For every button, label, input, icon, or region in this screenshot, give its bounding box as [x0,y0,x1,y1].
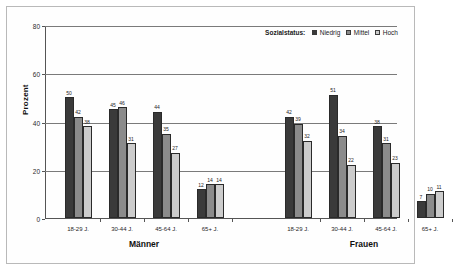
bar-value-label: 14 [207,178,213,183]
bar-group: 454631 [105,25,139,218]
bar-value-label: 14 [216,178,222,183]
bar-slot: 42 [74,25,83,218]
bar-slot: 39 [294,25,303,218]
x-axis-category-label: 65+ J. [202,226,219,232]
bar-slot: 50 [65,25,74,218]
bar-value-label: 22 [348,158,354,163]
bar[interactable] [171,153,180,218]
bar-value-label: 42 [286,110,292,115]
x-axis-category-label: 65+ J. [422,226,439,232]
bar-slot: 23 [391,25,400,218]
x-tick-mark [100,219,101,222]
bar[interactable] [83,126,92,218]
x-tick-mark [364,219,365,222]
bar-slot: 45 [109,25,118,218]
bar-slot: 51 [329,25,338,218]
bar-slot: 14 [206,25,215,218]
bar[interactable] [303,141,312,218]
bar[interactable] [215,184,224,218]
x-axis-category-label: 45-64 J. [155,226,177,232]
bar[interactable] [382,143,391,218]
bar[interactable] [373,126,382,218]
x-axis-category-label: 45-64 J. [375,226,397,232]
x-tick-mark [188,219,189,222]
bar-value-label: 51 [330,88,336,93]
bar-slot: 35 [162,25,171,218]
bar[interactable] [435,191,444,218]
x-axis-category-label: 18-29 J. [67,226,89,232]
bar-value-label: 32 [304,134,310,139]
bar-slot: 32 [303,25,312,218]
x-axis-category-label: 30-44 J. [331,226,353,232]
x-tick-mark [232,219,233,222]
bar-slot: 38 [373,25,382,218]
bar[interactable] [391,163,400,218]
bar[interactable] [65,97,74,218]
bar-group: 121414 [193,25,227,218]
y-tick-mark [42,171,45,172]
bar-value-label: 23 [392,156,398,161]
plot-area: 80604020050423818-29 J.45463130-44 J.443… [45,26,397,219]
bar[interactable] [285,117,294,218]
bar-value-label: 11 [436,185,441,190]
bar-group: 513422 [325,25,359,218]
bar-value-label: 39 [295,117,301,122]
y-tick-label: 0 [36,216,40,223]
bar-slot: 31 [127,25,136,218]
y-tick-mark [42,74,45,75]
bar-group: 71011 [413,25,447,218]
bar[interactable] [338,136,347,218]
y-tick-mark [42,26,45,27]
bar[interactable] [329,95,338,218]
bar[interactable] [162,134,171,218]
bar-slot: 27 [171,25,180,218]
bar[interactable] [426,194,435,218]
bar-value-label: 35 [163,127,169,132]
bar[interactable] [74,117,83,218]
bar-slot: 7 [417,25,426,218]
x-tick-mark [144,219,145,222]
bar-value-label: 46 [119,101,125,106]
chart-frame: Prozent Sozialstatus: NiedrigMittelHoch … [6,6,415,264]
bar-slot: 11 [435,25,444,218]
panel-label-frauen: Frauen [350,239,378,249]
bar-value-label: 45 [110,103,116,108]
x-tick-mark [408,219,409,222]
bar-slot: 10 [426,25,435,218]
bar-slot: 38 [83,25,92,218]
bar-slot: 44 [153,25,162,218]
y-axis-title: Prozent [21,84,30,115]
bar-slot: 31 [382,25,391,218]
bar-value-label: 27 [172,146,178,151]
bar[interactable] [347,165,356,218]
bar-slot: 34 [338,25,347,218]
bar[interactable] [417,201,426,218]
bar-value-label: 38 [374,120,380,125]
bar-slot: 46 [118,25,127,218]
bar-value-label: 10 [427,187,433,192]
bar[interactable] [127,143,136,218]
bar-slot: 14 [215,25,224,218]
bar-value-label: 34 [339,129,345,134]
bar[interactable] [118,107,127,218]
bar-value-label: 44 [154,105,160,110]
bar-value-label: 42 [75,110,81,115]
bar-value-label: 12 [198,183,204,188]
bar[interactable] [109,109,118,218]
bar-value-label: 7 [420,195,423,200]
y-tick-label: 80 [33,23,40,30]
bar[interactable] [153,112,162,218]
y-tick-label: 60 [33,71,40,78]
bar-slot: 12 [197,25,206,218]
bar[interactable] [197,189,206,218]
x-axis-category-label: 18-29 J. [287,226,309,232]
y-tick-label: 40 [33,119,40,126]
bar[interactable] [206,184,215,218]
bar-value-label: 38 [84,120,90,125]
y-tick-mark [42,219,45,220]
y-tick-label: 20 [33,167,40,174]
bar-value-label: 50 [66,91,72,96]
bar[interactable] [294,124,303,218]
x-axis-category-label: 30-44 J. [111,226,133,232]
bar-group: 504238 [61,25,95,218]
